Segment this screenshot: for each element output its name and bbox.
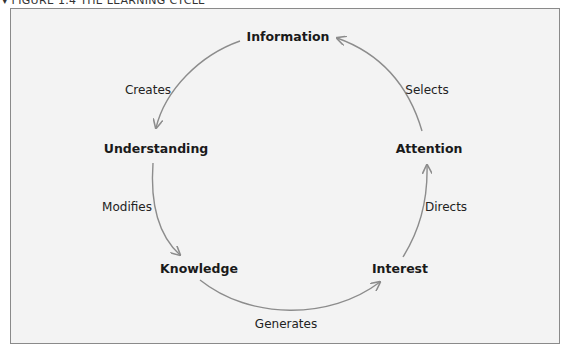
arrow-directs — [403, 165, 427, 257]
edge-label-directs: Directs — [425, 200, 467, 214]
edge-label-selects: Selects — [405, 83, 448, 97]
cycle-arrows — [0, 0, 568, 355]
node-understanding: Understanding — [104, 141, 208, 156]
node-knowledge: Knowledge — [160, 261, 238, 276]
edge-label-generates: Generates — [255, 317, 317, 331]
arrow-modifies — [152, 163, 180, 255]
node-information: Information — [247, 29, 330, 44]
edge-label-modifies: Modifies — [102, 200, 152, 214]
node-attention: Attention — [396, 141, 463, 156]
arrow-generates — [200, 280, 380, 310]
node-interest: Interest — [372, 261, 428, 276]
edge-label-creates: Creates — [125, 83, 171, 97]
